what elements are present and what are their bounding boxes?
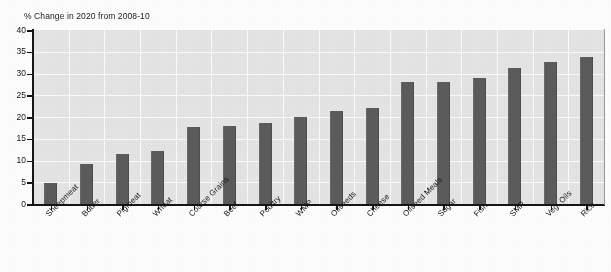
bar: [544, 62, 557, 204]
bar: [473, 78, 486, 204]
bar: [151, 151, 164, 204]
y-tick-label: 0: [4, 200, 26, 209]
y-tick-mark: [27, 204, 32, 206]
y-tick-label: 40: [4, 26, 26, 35]
y-tick-label: 25: [4, 91, 26, 100]
bar: [80, 164, 93, 205]
y-tick-label: 35: [4, 47, 26, 56]
y-tick-label: 15: [4, 134, 26, 143]
y-tick-mark: [27, 117, 32, 119]
bar: [508, 68, 521, 204]
bar: [223, 126, 236, 204]
bar: [116, 154, 129, 204]
y-tick-mark: [27, 30, 32, 32]
bar-chart: % Change in 2020 from 2008-10 0510152025…: [0, 0, 611, 272]
y-tick-label: 10: [4, 156, 26, 165]
bar: [401, 82, 414, 204]
bar: [580, 57, 593, 205]
plot-area: [33, 30, 604, 204]
y-tick-label: 20: [4, 113, 26, 122]
bar: [366, 108, 379, 204]
y-axis-tick-labels: 0510152025303540: [0, 0, 26, 272]
chart-title: % Change in 2020 from 2008-10: [24, 11, 150, 21]
bar: [187, 127, 200, 204]
y-tick-mark: [27, 74, 32, 76]
bar: [259, 123, 272, 204]
y-tick-mark: [27, 95, 32, 97]
y-tick-label: 5: [4, 178, 26, 187]
bar: [330, 111, 343, 204]
y-tick-mark: [27, 182, 32, 184]
y-tick-mark: [27, 139, 32, 141]
y-tick-mark: [27, 161, 32, 163]
bars-layer: [33, 30, 604, 204]
bar: [294, 117, 307, 204]
y-tick-label: 30: [4, 69, 26, 78]
plot-right-border: [604, 29, 605, 205]
y-axis-line: [32, 29, 34, 205]
y-tick-mark: [27, 52, 32, 54]
